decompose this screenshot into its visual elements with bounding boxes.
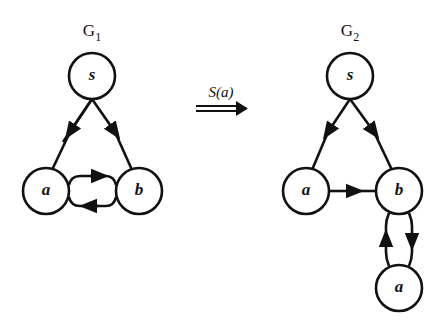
g1-node-a-label: a (42, 180, 51, 200)
diagram-canvas: G1 G2 S(a) s a b s a b a (0, 0, 444, 330)
g1-node-s-label: s (89, 65, 96, 85)
g1-edge-s-b (92, 99, 132, 170)
g2-edge-b-a-loop (386, 213, 412, 266)
g1-edge-s-a (52, 99, 92, 174)
g1-edge-a-b-loop (69, 176, 116, 206)
g2-title: G2 (341, 21, 359, 44)
g2-node-a-label: a (302, 180, 311, 200)
double-right-arrow-icon (196, 101, 248, 116)
g2-node-s-label: s (347, 65, 354, 85)
g1-title: G1 (83, 21, 101, 44)
g1-node-b-label: b (135, 180, 144, 200)
g2-node-a2-label: a (395, 277, 404, 297)
graph-drawing (0, 0, 444, 330)
g2-node-b-label: b (395, 180, 404, 200)
g2-edge-s-b (350, 99, 392, 170)
g2-edge-s-a (312, 99, 350, 170)
transformation-label: S(a) (209, 84, 234, 101)
